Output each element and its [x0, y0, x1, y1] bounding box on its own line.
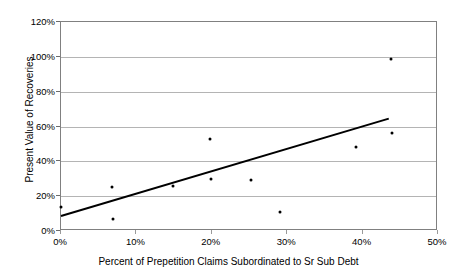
- y-axis-title: Present Value of Recoveries: [24, 15, 35, 225]
- x-tick-mark: [135, 230, 136, 234]
- x-tick-mark: [362, 230, 363, 234]
- x-tick-mark: [437, 230, 438, 234]
- x-tick-mark: [286, 230, 287, 234]
- x-tick-label: 30%: [277, 236, 296, 247]
- trendline-segment: [61, 119, 389, 216]
- y-tick-label: 0%: [9, 225, 55, 236]
- x-tick-mark: [211, 230, 212, 234]
- x-tick-label: 50%: [427, 236, 446, 247]
- plot-area: [60, 21, 437, 230]
- trendline: [61, 22, 436, 229]
- x-axis-title: Percent of Prepetition Claims Subordinat…: [0, 256, 457, 267]
- x-tick-mark: [60, 230, 61, 234]
- x-tick-label: 40%: [352, 236, 371, 247]
- x-tick-label: 10%: [126, 236, 145, 247]
- x-tick-label: 20%: [201, 236, 220, 247]
- scatter-chart: 0%20%40%60%80%100%120% 0%10%20%30%40%50%…: [0, 0, 457, 280]
- x-tick-label: 0%: [53, 236, 67, 247]
